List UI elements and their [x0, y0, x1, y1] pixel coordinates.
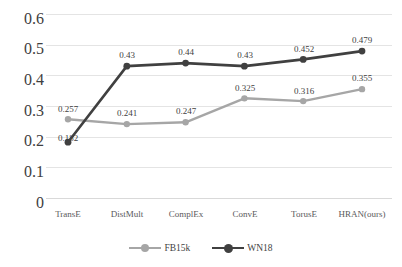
marker-wn18-toruse [300, 56, 307, 63]
datalabel-fb15k-conve: 0.325 [235, 84, 255, 93]
line-chart: 0.6 0.5 0.4 0.3 0.2 0.1 0 0.182 0.43 0.4… [0, 0, 402, 267]
datalabel-wn18-hran: 0.479 [352, 36, 372, 45]
legend-item-wn18[interactable]: WN18 [212, 243, 272, 253]
marker-fb15k-toruse [300, 98, 306, 104]
marker-wn18-conve [241, 63, 248, 70]
datalabel-fb15k-toruse: 0.316 [294, 87, 314, 96]
datalabel-wn18-complex: 0.44 [178, 48, 194, 57]
marker-wn18-hran [359, 48, 366, 55]
marker-fb15k-complex [182, 119, 188, 125]
legend-swatch-fb15k-icon [129, 243, 161, 253]
datalabel-wn18-distmult: 0.43 [119, 51, 135, 60]
datalabel-wn18-transe: 0.182 [58, 134, 78, 143]
x-label-distmult: DistMult [111, 209, 144, 219]
marker-fb15k-hran [359, 86, 365, 92]
legend-label-wn18: WN18 [247, 243, 272, 253]
series-line-wn18-real [68, 51, 362, 142]
x-label-hran: HRAN(ours) [339, 209, 386, 219]
datalabel-wn18-toruse: 0.452 [294, 45, 314, 54]
x-label-toruse: TorusE [291, 209, 317, 219]
marker-wn18-distmult [123, 63, 130, 70]
legend-swatch-wn18-icon [212, 243, 244, 253]
marker-fb15k-transe [65, 116, 71, 122]
x-label-transe: TransE [55, 209, 81, 219]
legend: FB15k WN18 [0, 243, 402, 253]
legend-item-fb15k[interactable]: FB15k [129, 243, 190, 253]
datalabel-fb15k-distmult: 0.241 [117, 109, 137, 118]
datalabel-fb15k-complex: 0.247 [176, 107, 196, 116]
datalabel-fb15k-hran: 0.355 [352, 74, 372, 83]
marker-fb15k-conve [241, 95, 247, 101]
legend-label-fb15k: FB15k [164, 243, 190, 253]
marker-wn18-complex [182, 60, 189, 67]
x-label-conve: ConvE [232, 209, 257, 219]
datalabel-wn18-conve: 0.43 [237, 51, 253, 60]
series-line-fb15k-real [68, 89, 362, 124]
marker-fb15k-distmult [124, 121, 130, 127]
x-label-complex: ComplEx [169, 209, 204, 219]
datalabel-fb15k-transe: 0.257 [58, 105, 78, 114]
